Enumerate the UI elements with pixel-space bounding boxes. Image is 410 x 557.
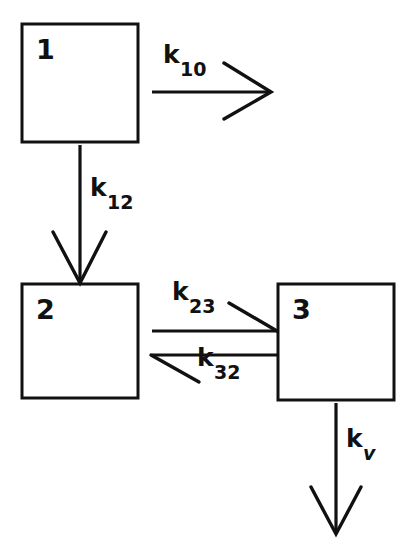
compartment-1: 1 <box>22 24 138 142</box>
rate-label-k12-base: k <box>90 173 108 202</box>
rate-label-k12-subscript: 12 <box>107 191 133 213</box>
rate-label-k32-base: k <box>197 343 215 372</box>
arrow-k23-head <box>229 303 277 331</box>
rate-label-kv-base: k <box>346 424 364 453</box>
diagram-canvas: 1 2 3 k 10 k 12 <box>0 0 410 557</box>
compartment-3: 3 <box>278 284 394 400</box>
rate-label-k10: k 10 <box>163 40 206 80</box>
compartment-1-label: 1 <box>36 34 55 65</box>
rate-label-k10-base: k <box>163 40 181 69</box>
compartment-3-label: 3 <box>292 294 311 325</box>
arrow-k32-head <box>151 355 199 382</box>
compartment-2: 2 <box>22 284 138 398</box>
rate-label-k12: k 12 <box>90 173 133 213</box>
compartment-2-label: 2 <box>36 294 55 325</box>
rate-label-k32: k 32 <box>197 343 240 383</box>
rate-label-k23-base: k <box>172 277 190 306</box>
rate-label-kv: k v <box>346 424 376 464</box>
arrow-kv <box>311 403 361 534</box>
rate-label-k10-subscript: 10 <box>180 58 206 80</box>
arrow-k10 <box>152 63 271 119</box>
rate-label-k23: k 23 <box>172 277 215 317</box>
arrow-k12 <box>53 145 106 283</box>
rate-label-kv-subscript: v <box>363 442 376 464</box>
rate-label-k23-subscript: 23 <box>189 295 215 317</box>
rate-label-k32-subscript: 32 <box>214 361 240 383</box>
compartment-diagram: 1 2 3 k 10 k 12 <box>0 0 410 557</box>
